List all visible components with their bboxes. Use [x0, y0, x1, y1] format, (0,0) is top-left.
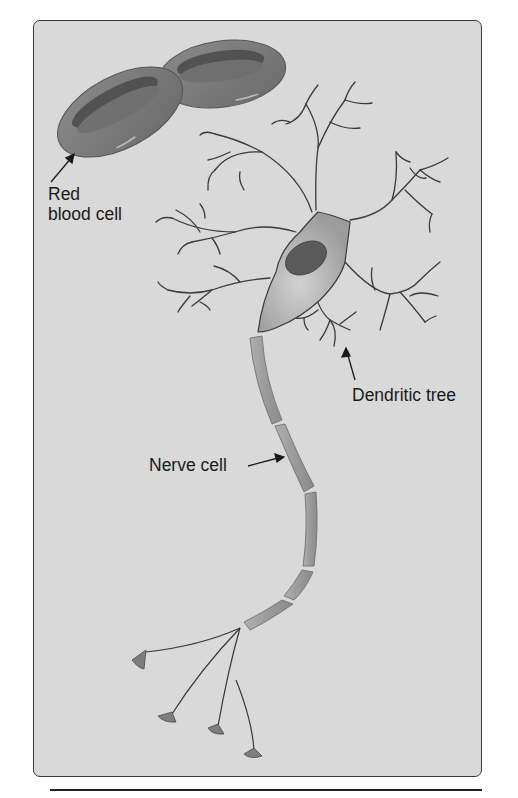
terminal-boutons	[132, 650, 262, 758]
axon-terminals	[146, 628, 254, 750]
label-red-blood-cell-line1: Red	[48, 184, 80, 205]
label-arrows	[51, 154, 355, 466]
axon	[244, 336, 317, 630]
label-dendritic-tree: Dendritic tree	[352, 385, 456, 406]
red-blood-cells	[43, 32, 290, 175]
neuron-soma	[258, 212, 350, 332]
label-nerve-cell: Nerve cell	[149, 455, 227, 476]
label-red-blood-cell-line2: blood cell	[48, 204, 122, 225]
